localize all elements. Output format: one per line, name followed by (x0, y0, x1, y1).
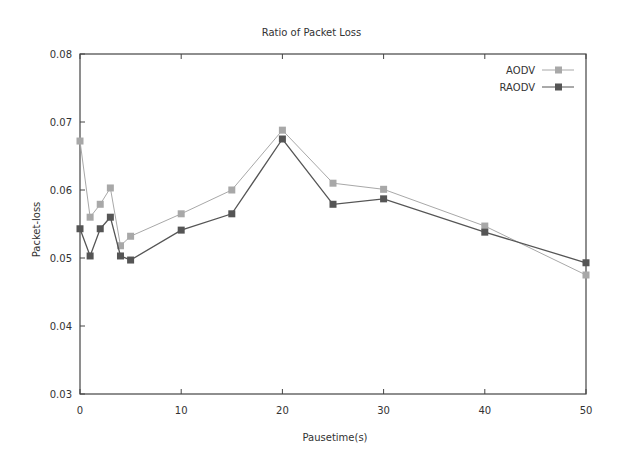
data-point-aodv (107, 184, 114, 191)
x-tick-label: 40 (478, 405, 491, 416)
data-point-aodv (380, 186, 387, 193)
x-tick-label: 20 (276, 405, 289, 416)
y-tick-label: 0.06 (50, 185, 72, 196)
y-tick-label: 0.05 (50, 253, 72, 264)
line-chart: 010203040500.030.040.050.060.070.08AODVR… (0, 0, 623, 465)
y-tick-label: 0.04 (50, 321, 72, 332)
data-point-aodv (87, 214, 94, 221)
legend-label-aodv: AODV (506, 65, 535, 76)
data-point-raodv (178, 227, 185, 234)
data-point-aodv (127, 233, 134, 240)
data-point-raodv (117, 252, 124, 259)
data-point-raodv (583, 259, 590, 266)
data-point-raodv (380, 195, 387, 202)
legend-marker-aodv (555, 67, 562, 74)
data-point-aodv (178, 210, 185, 217)
x-tick-label: 30 (377, 405, 390, 416)
data-point-raodv (107, 214, 114, 221)
data-point-raodv (481, 229, 488, 236)
data-point-raodv (87, 252, 94, 259)
x-tick-label: 10 (175, 405, 188, 416)
data-point-raodv (127, 257, 134, 264)
y-tick-label: 0.03 (50, 389, 72, 400)
data-point-raodv (279, 136, 286, 143)
data-point-aodv (97, 201, 104, 208)
data-point-raodv (77, 225, 84, 232)
data-point-aodv (228, 187, 235, 194)
y-tick-label: 0.07 (50, 117, 72, 128)
y-tick-label: 0.08 (50, 49, 72, 60)
legend-label-raodv: RAODV (500, 82, 536, 93)
data-point-aodv (279, 127, 286, 134)
data-point-raodv (97, 225, 104, 232)
data-point-aodv (583, 272, 590, 279)
data-point-aodv (481, 223, 488, 230)
data-point-aodv (330, 180, 337, 187)
x-tick-label: 0 (77, 405, 83, 416)
data-point-aodv (77, 138, 84, 145)
data-point-raodv (228, 210, 235, 217)
legend-marker-raodv (555, 84, 562, 91)
plot-frame (80, 54, 586, 394)
x-tick-label: 50 (580, 405, 593, 416)
data-point-raodv (330, 201, 337, 208)
